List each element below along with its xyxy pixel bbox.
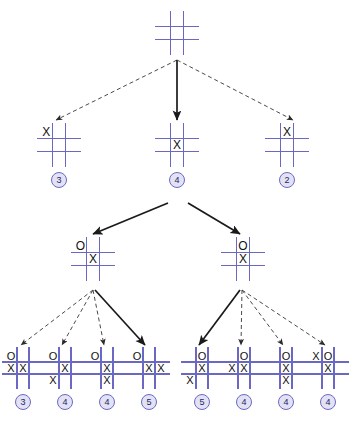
board-cell-1-o[interactable]: O (131, 350, 143, 362)
tree-node-leaf-1[interactable]: OXX3 (5, 350, 41, 386)
board-cell-9-empty[interactable] (208, 374, 220, 386)
board-cell-1-empty[interactable] (184, 350, 196, 362)
board-cell-5-x[interactable]: X (280, 362, 292, 374)
board-cell-4-empty[interactable] (158, 139, 171, 152)
tree-node-leaf-4[interactable]: OXX5 (131, 350, 167, 386)
board-cell-3-empty[interactable] (293, 126, 306, 139)
board-cell-8-x[interactable]: X (101, 374, 113, 386)
board-cell-8-empty[interactable] (322, 374, 334, 386)
tree-node-n1-right[interactable]: X2 (268, 126, 306, 164)
board-cell-1-empty[interactable] (158, 14, 171, 27)
board-cell-8-empty[interactable] (238, 374, 250, 386)
board-cell-1-empty[interactable] (158, 126, 171, 139)
board-cell-7-empty[interactable] (131, 374, 143, 386)
board-cell-7-empty[interactable] (5, 374, 17, 386)
board-cell-9-empty[interactable] (155, 374, 167, 386)
board-cell-8-empty[interactable] (17, 374, 29, 386)
board-cell-3-empty[interactable] (183, 126, 196, 139)
board-cell-5-x[interactable]: X (196, 362, 208, 374)
board-cell-2-x[interactable]: X (281, 126, 294, 139)
board-cell-9-empty[interactable] (292, 374, 304, 386)
board-cell-4-empty[interactable] (224, 253, 237, 266)
board-cell-6-empty[interactable] (29, 362, 41, 374)
tree-node-leaf-8[interactable]: XOX4 (310, 350, 346, 386)
board-cell-2-empty[interactable] (171, 126, 184, 139)
board-cell-4-empty[interactable] (47, 362, 59, 374)
tree-node-n1-mid[interactable]: X4 (158, 126, 196, 164)
board-cell-9-empty[interactable] (29, 374, 41, 386)
board-cell-6-empty[interactable] (208, 362, 220, 374)
board-cell-6-empty[interactable] (113, 362, 125, 374)
board-cell-6-empty[interactable] (183, 27, 196, 40)
board-cell-5-empty[interactable] (281, 139, 294, 152)
board-cell-8-empty[interactable] (59, 374, 71, 386)
board-cell-6-empty[interactable] (99, 253, 112, 266)
board-cell-5-x[interactable]: X (238, 362, 250, 374)
board-cell-1-x[interactable]: X (310, 350, 322, 362)
board-cell-2-o[interactable]: O (196, 350, 208, 362)
board-cell-2-empty[interactable] (143, 350, 155, 362)
board-cell-5-empty[interactable] (53, 139, 66, 152)
board-cell-3-empty[interactable] (334, 350, 346, 362)
board-cell-6-empty[interactable] (250, 362, 262, 374)
board-cell-3-empty[interactable] (99, 240, 112, 253)
board-cell-5-x[interactable]: X (237, 253, 250, 266)
board-cell-9-empty[interactable] (113, 374, 125, 386)
board-cell-3-empty[interactable] (29, 350, 41, 362)
board-cell-7-empty[interactable] (158, 151, 171, 164)
board-cell-2-o[interactable]: O (322, 350, 334, 362)
board-cell-2-empty[interactable] (53, 126, 66, 139)
board-cell-2-empty[interactable] (101, 350, 113, 362)
board-cell-4-x[interactable]: X (5, 362, 17, 374)
board-cell-4-empty[interactable] (40, 139, 53, 152)
board-cell-9-empty[interactable] (183, 39, 196, 52)
board-cell-8-empty[interactable] (171, 151, 184, 164)
board-cell-2-empty[interactable] (171, 14, 184, 27)
board-cell-2-empty[interactable] (59, 350, 71, 362)
board-cell-9-empty[interactable] (99, 265, 112, 278)
board-cell-6-empty[interactable] (293, 139, 306, 152)
board-cell-6-empty[interactable] (334, 362, 346, 374)
board-cell-3-empty[interactable] (250, 350, 262, 362)
board-cell-4-empty[interactable] (131, 362, 143, 374)
board-cell-9-empty[interactable] (293, 151, 306, 164)
board-cell-3-empty[interactable] (113, 350, 125, 362)
board-cell-6-empty[interactable] (65, 139, 78, 152)
board-cell-6-empty[interactable] (249, 253, 262, 266)
board-cell-8-empty[interactable] (53, 151, 66, 164)
board-cell-9-empty[interactable] (183, 151, 196, 164)
board-cell-3-empty[interactable] (208, 350, 220, 362)
board-cell-4-empty[interactable] (158, 27, 171, 40)
board-cell-9-empty[interactable] (65, 151, 78, 164)
board-cell-2-o[interactable]: O (238, 350, 250, 362)
board-cell-7-empty[interactable] (158, 39, 171, 52)
board-cell-2-o[interactable]: O (237, 240, 250, 253)
board-cell-3-empty[interactable] (292, 350, 304, 362)
board-cell-1-o[interactable]: O (74, 240, 87, 253)
board-cell-4-empty[interactable] (74, 253, 87, 266)
board-cell-4-empty[interactable] (268, 139, 281, 152)
board-cell-5-x[interactable]: X (143, 362, 155, 374)
board-cell-8-empty[interactable] (87, 265, 100, 278)
board-cell-1-o[interactable]: O (89, 350, 101, 362)
board-cell-8-x[interactable]: X (280, 374, 292, 386)
board-cell-7-empty[interactable] (226, 374, 238, 386)
board-cell-7-empty[interactable] (310, 374, 322, 386)
board-cell-9-empty[interactable] (71, 374, 83, 386)
board-cell-4-x[interactable]: X (226, 362, 238, 374)
board-cell-3-empty[interactable] (65, 126, 78, 139)
board-cell-1-empty[interactable] (268, 126, 281, 139)
board-cell-3-empty[interactable] (155, 350, 167, 362)
board-cell-7-empty[interactable] (74, 265, 87, 278)
board-cell-7-empty[interactable] (40, 151, 53, 164)
board-cell-6-empty[interactable] (71, 362, 83, 374)
board-cell-3-empty[interactable] (183, 14, 196, 27)
board-cell-9-empty[interactable] (250, 374, 262, 386)
board-cell-5-empty[interactable] (171, 27, 184, 40)
board-cell-8-empty[interactable] (171, 39, 184, 52)
board-cell-6-empty[interactable] (183, 139, 196, 152)
tree-node-n2-right[interactable]: OX (224, 240, 262, 278)
board-cell-5-x[interactable]: X (17, 362, 29, 374)
board-cell-8-empty[interactable] (281, 151, 294, 164)
board-cell-8-empty[interactable] (196, 374, 208, 386)
